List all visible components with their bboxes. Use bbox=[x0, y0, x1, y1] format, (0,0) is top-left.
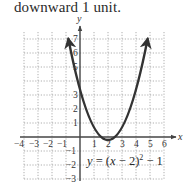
svg-text:−3: −3 bbox=[66, 174, 76, 184]
svg-text:3: 3 bbox=[120, 139, 125, 149]
svg-text:3: 3 bbox=[73, 90, 78, 100]
svg-text:−3: −3 bbox=[29, 139, 39, 149]
svg-text:1: 1 bbox=[73, 118, 78, 128]
svg-text:−4: −4 bbox=[14, 139, 24, 149]
svg-text:1: 1 bbox=[92, 139, 97, 149]
svg-text:−2: −2 bbox=[66, 160, 76, 170]
equation-label: y = (x − 2)2 − 1 bbox=[85, 153, 163, 168]
svg-text:−1: −1 bbox=[66, 146, 76, 156]
y-axis-label: y bbox=[76, 13, 82, 24]
svg-text:2: 2 bbox=[73, 104, 78, 114]
svg-text:−2: −2 bbox=[43, 139, 53, 149]
x-axis-label: x bbox=[177, 131, 183, 142]
svg-text:7: 7 bbox=[73, 34, 78, 44]
svg-text:5: 5 bbox=[148, 139, 153, 149]
parabola-graph: x y −4 −3 −2 −1 1 2 3 4 5 6 7 6 5 3 2 1 … bbox=[0, 0, 193, 195]
svg-text:6: 6 bbox=[162, 139, 167, 149]
svg-text:4: 4 bbox=[134, 139, 139, 149]
x-tick-labels: −4 −3 −2 −1 1 2 3 4 5 6 bbox=[14, 139, 167, 149]
svg-text:6: 6 bbox=[73, 48, 78, 58]
